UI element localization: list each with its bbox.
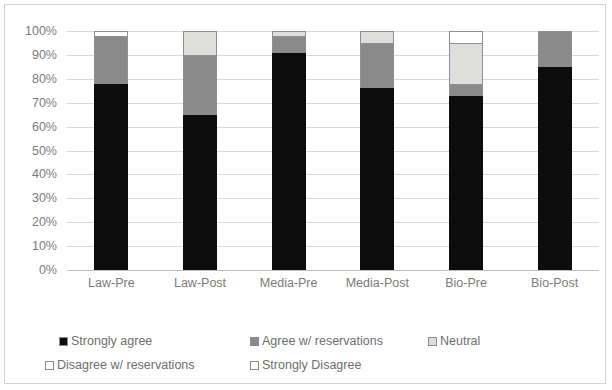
chart-legend: Strongly agreeAgree w/ reservationsNeutr… bbox=[45, 333, 585, 381]
legend-swatch-icon bbox=[428, 337, 437, 346]
stacked-bar[interactable] bbox=[538, 31, 572, 270]
bar-segment[interactable] bbox=[183, 115, 217, 270]
y-axis-tick-label: 0% bbox=[5, 264, 57, 277]
y-axis-tick-label: 20% bbox=[5, 216, 57, 229]
bar-segment[interactable] bbox=[360, 88, 394, 270]
stacked-bar[interactable] bbox=[183, 31, 217, 270]
y-axis-tick-label: 90% bbox=[5, 49, 57, 62]
bar-segment[interactable] bbox=[272, 53, 306, 270]
legend-item[interactable]: Neutral bbox=[428, 335, 480, 348]
legend-swatch-icon bbox=[250, 361, 259, 370]
bar-segment[interactable] bbox=[94, 36, 128, 84]
bar-segment[interactable] bbox=[538, 67, 572, 270]
y-axis-tick-label: 100% bbox=[5, 25, 57, 38]
x-axis-tick-label: Law-Pre bbox=[88, 277, 135, 290]
y-axis-tick-label: 50% bbox=[5, 145, 57, 158]
legend-item-label: Disagree w/ reservations bbox=[57, 359, 195, 372]
y-axis-tick-label: 70% bbox=[5, 97, 57, 110]
bar-segment[interactable] bbox=[449, 31, 483, 43]
legend-swatch-icon bbox=[250, 337, 259, 346]
x-axis-tick-label: Bio-Post bbox=[531, 277, 578, 290]
x-axis-tick-label: Media-Pre bbox=[260, 277, 318, 290]
x-axis: Law-PreLaw-PostMedia-PreMedia-PostBio-Pr… bbox=[67, 277, 599, 297]
legend-item-label: Neutral bbox=[440, 335, 480, 348]
stacked-bar[interactable] bbox=[360, 31, 394, 270]
bar-slot bbox=[510, 31, 599, 270]
legend-item-label: Strongly agree bbox=[71, 335, 152, 348]
legend-item[interactable]: Strongly Disagree bbox=[250, 359, 361, 372]
stacked-bar[interactable] bbox=[94, 31, 128, 270]
bar-segment[interactable] bbox=[272, 36, 306, 53]
stacked-bar[interactable] bbox=[449, 31, 483, 270]
y-axis: 100%90%80%70%60%50%40%30%20%10%0% bbox=[5, 31, 61, 270]
legend-swatch-icon bbox=[59, 337, 68, 346]
bar-segment[interactable] bbox=[449, 84, 483, 96]
bar-slot bbox=[156, 31, 245, 270]
stacked-bar[interactable] bbox=[272, 31, 306, 270]
chart-container: 100%90%80%70%60%50%40%30%20%10%0% Law-Pr… bbox=[4, 4, 606, 384]
y-axis-tick-label: 40% bbox=[5, 168, 57, 181]
bar-segment[interactable] bbox=[183, 31, 217, 55]
legend-item-label: Agree w/ reservations bbox=[262, 335, 383, 348]
bar-segment[interactable] bbox=[94, 84, 128, 270]
x-axis-tick-label: Media-Post bbox=[346, 277, 409, 290]
bar-slot bbox=[422, 31, 511, 270]
legend-item-label: Strongly Disagree bbox=[262, 359, 361, 372]
x-axis-tick-label: Bio-Pre bbox=[445, 277, 487, 290]
bar-segment[interactable] bbox=[538, 31, 572, 67]
y-axis-tick-label: 30% bbox=[5, 192, 57, 205]
gridline-0 bbox=[67, 270, 599, 271]
x-axis-tick-label: Law-Post bbox=[174, 277, 226, 290]
bar-segment[interactable] bbox=[360, 43, 394, 88]
y-axis-tick-label: 10% bbox=[5, 240, 57, 253]
legend-item[interactable]: Agree w/ reservations bbox=[250, 335, 383, 348]
bar-segment[interactable] bbox=[449, 43, 483, 84]
bar-segment[interactable] bbox=[183, 55, 217, 115]
bar-slot bbox=[67, 31, 156, 270]
bar-segment[interactable] bbox=[449, 96, 483, 270]
legend-item[interactable]: Strongly agree bbox=[59, 335, 152, 348]
legend-swatch-icon bbox=[45, 361, 54, 370]
y-axis-tick-label: 60% bbox=[5, 121, 57, 134]
legend-item[interactable]: Disagree w/ reservations bbox=[45, 359, 195, 372]
bar-segment[interactable] bbox=[360, 31, 394, 43]
bar-slot bbox=[244, 31, 333, 270]
y-axis-tick-label: 80% bbox=[5, 73, 57, 86]
plot-area bbox=[67, 31, 599, 270]
bar-slot bbox=[333, 31, 422, 270]
